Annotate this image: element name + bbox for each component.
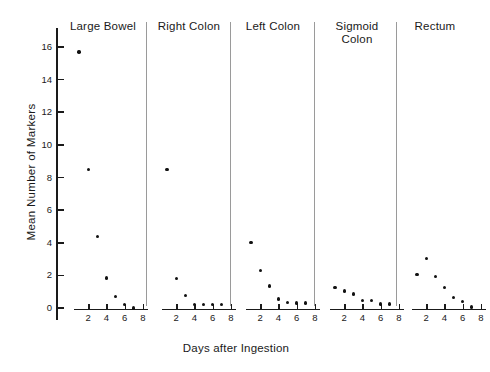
x-tick [362,304,363,309]
data-point [184,294,187,297]
y-tick-label: 14 [24,74,52,85]
x-tick-label: 2 [79,312,97,323]
data-point [220,303,223,306]
y-axis-spine [56,28,58,320]
data-point [286,301,289,304]
plot-area: 2468 [60,20,146,320]
x-tick [143,304,144,309]
panel-separator [314,22,315,306]
y-tick-label: 4 [24,237,52,248]
data-point [379,302,382,305]
data-point [415,273,418,276]
data-point [443,286,446,289]
x-axis-title: Days after Ingestion [0,342,472,354]
panel-separator [146,22,147,306]
data-point [461,300,464,303]
panel-rectum: Rectum2468 [398,20,472,320]
data-point [352,292,355,295]
x-tick-label: 8 [472,312,490,323]
x-tick-label: 2 [251,312,269,323]
data-point [165,168,168,171]
x-tick [444,304,445,309]
y-tick-label: 0 [24,302,52,313]
data-point [105,276,108,279]
data-point [175,277,178,280]
x-tick [463,304,464,309]
data-point [96,235,99,238]
data-point [277,297,280,300]
x-tick-label: 4 [185,312,203,323]
data-point [452,296,455,299]
plot-area: 2468 [148,20,230,320]
panel-separator [230,22,231,306]
x-tick-label: 6 [454,312,472,323]
plot-area: 2468 [316,20,398,320]
y-tick-label: 12 [24,106,52,117]
x-axis-spine [74,309,149,311]
data-point [259,269,262,272]
x-tick-label: 4 [97,312,115,323]
data-point [114,295,117,298]
x-tick-label: 2 [335,312,353,323]
data-point [333,286,336,289]
data-point [343,289,346,292]
x-tick-label: 6 [372,312,390,323]
x-tick [88,304,89,309]
y-tick-label: 6 [24,204,52,215]
data-point [434,275,437,278]
y-tick-label: 10 [24,139,52,150]
x-axis-spine [412,309,487,311]
data-point [77,50,80,53]
x-tick-label: 6 [116,312,134,323]
y-tick-label: 16 [24,41,52,52]
data-point [361,299,364,302]
x-tick [344,304,345,309]
panel-large-bowel: Large Bowel2468 [60,20,146,320]
x-axis-spine [246,309,321,311]
panel-right-colon: Right Colon2468 [148,20,230,320]
x-tick-label: 2 [167,312,185,323]
x-tick-label: 4 [269,312,287,323]
data-point [249,241,252,244]
panel-left-colon: Left Colon2468 [232,20,314,320]
plot-area: 2468 [232,20,314,320]
x-tick-label: 6 [288,312,306,323]
x-tick [176,304,177,309]
data-point [268,284,271,287]
x-tick-label: 4 [435,312,453,323]
x-tick [260,304,261,309]
x-tick [481,304,482,309]
panel-sigmoid-colon: Sigmoid Colon2468 [316,20,398,320]
data-point [87,168,90,171]
x-tick [426,304,427,309]
x-tick-label: 4 [353,312,371,323]
data-point [425,257,428,260]
x-tick-label: 2 [417,312,435,323]
data-point [370,299,373,302]
x-tick [278,304,279,309]
y-tick-label: 2 [24,269,52,280]
data-point [388,302,391,305]
x-axis-spine [330,309,405,311]
x-tick [106,304,107,309]
plot-area: 2468 [398,20,472,320]
x-tick-label: 6 [204,312,222,323]
data-point [304,301,307,304]
x-axis-spine [162,309,237,311]
data-point [202,303,205,306]
y-tick-label: 8 [24,172,52,183]
